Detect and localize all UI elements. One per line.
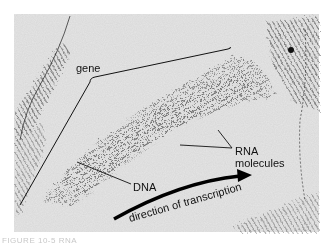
dna-label: DNA [133, 181, 157, 193]
micrograph-figure: gene RNA molecules DNA direction of tran… [0, 0, 335, 245]
dark-spot [288, 47, 294, 53]
figure-caption: FIGURE 10-5 RNA [2, 236, 77, 245]
gene-label: gene [76, 62, 100, 74]
rna-label: RNA [235, 145, 259, 157]
rna-label-line2: molecules [235, 157, 285, 169]
